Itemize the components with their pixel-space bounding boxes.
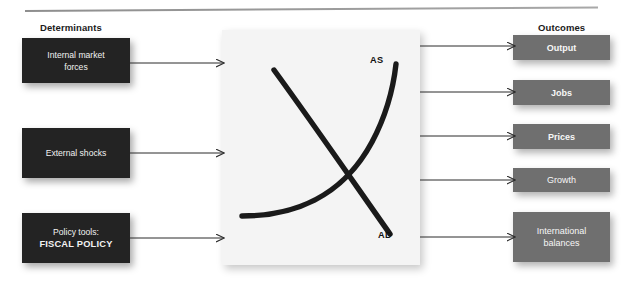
outcome-box-jobs[interactable]: Jobs [513, 80, 610, 105]
outcome-box-prices[interactable]: Prices [513, 124, 610, 149]
outcome-box-international-balances[interactable]: Internationalbalances [513, 212, 610, 262]
as-curve-path [242, 64, 396, 216]
as-curve-label: AS [370, 55, 383, 65]
determinant-label-policy-line2: FISCAL POLICY [39, 239, 112, 249]
determinant-label-policy: Policy tools: FISCAL POLICY [39, 226, 112, 250]
outcome-label-intl: Internationalbalances [537, 225, 587, 249]
determinant-box-external-shocks[interactable]: External shocks [22, 128, 130, 178]
determinants-heading: Determinants [40, 22, 102, 33]
outcome-label-prices: Prices [548, 131, 575, 143]
outcome-box-growth[interactable]: Growth [513, 168, 610, 192]
ad-curve-label: AD [378, 230, 392, 240]
outcome-label-jobs: Jobs [551, 87, 572, 99]
top-divider [25, 6, 598, 12]
diagram-canvas: Determinants Outcomes Internal marketfor… [0, 0, 642, 288]
determinant-label-internal: Internal marketforces [47, 49, 104, 73]
determinant-box-internal-market-forces[interactable]: Internal marketforces [22, 38, 130, 83]
determinant-label-external: External shocks [46, 147, 107, 159]
outcome-label-output: Output [547, 42, 577, 54]
outcome-label-growth: Growth [547, 174, 576, 186]
outcome-box-output[interactable]: Output [513, 35, 610, 60]
outcomes-heading: Outcomes [538, 22, 585, 33]
determinant-box-policy-tools[interactable]: Policy tools: FISCAL POLICY [22, 213, 130, 263]
determinant-label-policy-line1: Policy tools: [53, 227, 99, 237]
